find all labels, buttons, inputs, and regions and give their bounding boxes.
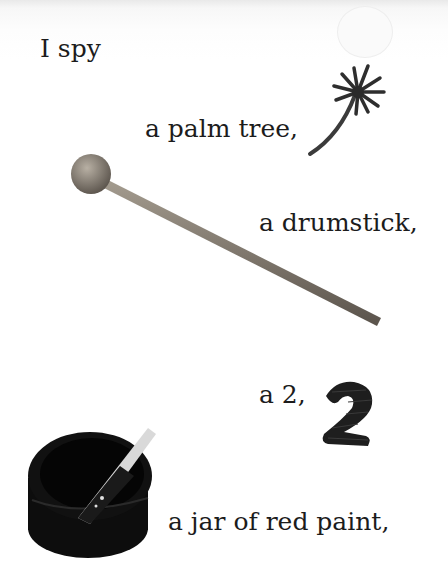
faint-circle-decoration (337, 6, 393, 58)
paint-jar-icon (20, 418, 170, 568)
text-paint-jar: a jar of red paint, (168, 507, 389, 537)
drumstick-icon (68, 150, 388, 330)
text-i-spy: I spy (40, 34, 101, 64)
book-page: I spy a palm tree, a drumstick, a 2, a j… (0, 0, 448, 584)
text-palm-tree: a palm tree, (145, 114, 298, 144)
palm-tree-icon (300, 60, 395, 160)
number-two-icon (318, 378, 380, 452)
text-number-two: a 2, (259, 380, 306, 410)
